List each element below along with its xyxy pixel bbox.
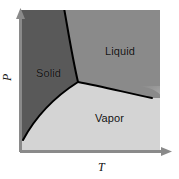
temperature-axis-arrowhead	[161, 147, 172, 156]
region-label-liquid: Liquid	[105, 46, 135, 57]
region-label-vapor: Vapor	[95, 113, 124, 124]
phase-diagram-plot	[0, 0, 179, 179]
y-axis-label: P	[1, 74, 13, 81]
x-axis-label: T	[98, 161, 105, 173]
phase-diagram-figure: Solid Liquid Vapor T P	[0, 0, 179, 179]
region-label-solid: Solid	[36, 68, 61, 79]
